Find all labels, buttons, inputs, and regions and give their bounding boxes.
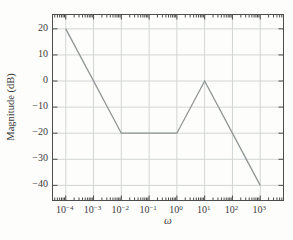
y-tick-label: −10 — [0, 100, 48, 112]
y-tick-label: 10 — [0, 48, 48, 60]
y-tick-label: 0 — [0, 74, 48, 86]
bode-magnitude-figure: Magnitude (dB) 20100−10−20−30−40 10−410−… — [0, 0, 293, 240]
x-axis-label: ω — [52, 214, 284, 226]
plot-area — [52, 14, 284, 201]
magnitude-plot-svg — [53, 15, 283, 200]
y-tick-label: −20 — [0, 126, 48, 138]
y-tick-label: 20 — [0, 22, 48, 34]
y-tick-label: −30 — [0, 152, 48, 164]
y-tick-label: −40 — [0, 178, 48, 190]
